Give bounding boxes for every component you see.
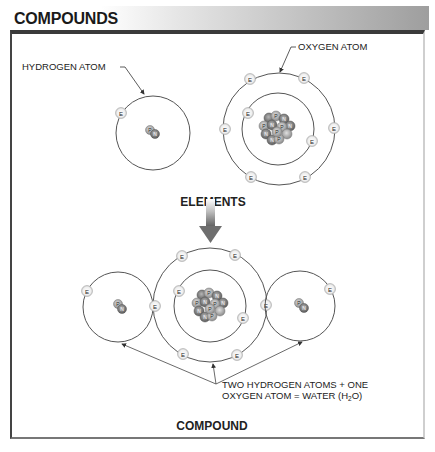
svg-text:N: N — [203, 314, 207, 320]
electron-icon: E — [150, 301, 161, 312]
svg-text:E: E — [302, 76, 306, 82]
electron-icon: E — [174, 286, 185, 297]
electron-icon: E — [232, 350, 243, 361]
atom-diagram: E P N HYDROGEN ATOM E E E E E E E E P N … — [0, 0, 435, 452]
electron-icon: E — [82, 286, 93, 297]
electron-icon: E — [245, 74, 256, 85]
electron-icon: E — [220, 124, 231, 135]
svg-text:E: E — [246, 111, 250, 117]
svg-text:E: E — [235, 353, 239, 359]
svg-text:N: N — [197, 308, 201, 314]
electron-icon: E — [261, 300, 272, 311]
electron-icon: E — [325, 284, 336, 295]
electron-icon: E — [177, 251, 188, 262]
oxygen-atom-label: OXYGEN ATOM — [298, 41, 367, 52]
svg-text:E: E — [153, 304, 157, 310]
svg-text:E: E — [328, 287, 332, 293]
compound-oxygen-nucleus: P N N P N P N N P P — [192, 288, 228, 322]
neutron-icon: N — [300, 304, 309, 313]
caption-line-2: OXYGEN ATOM = WATER (H2O) — [222, 390, 362, 402]
svg-text:E: E — [303, 175, 307, 181]
svg-text:N: N — [302, 305, 306, 311]
svg-text:E: E — [181, 352, 185, 358]
svg-text:N: N — [221, 300, 225, 306]
electron-icon: E — [299, 73, 310, 84]
svg-text:N: N — [153, 131, 157, 137]
compound-heading: COMPOUND — [176, 419, 248, 433]
caption-pointer-lines — [122, 342, 302, 384]
svg-text:N: N — [203, 299, 207, 305]
electron-icon: E — [307, 136, 318, 147]
compound-hydrogen-left: E P N — [82, 272, 154, 342]
oxygen-atom: E E E E E E E E P N N P N P N N P P — [220, 73, 340, 186]
electron-icon: E — [246, 172, 257, 183]
svg-text:E: E — [223, 127, 227, 133]
svg-text:N: N — [282, 116, 286, 122]
svg-text:E: E — [310, 139, 314, 145]
compound-hydrogen-right: E P N — [265, 271, 336, 341]
electron-icon: E — [178, 349, 189, 360]
caption-line-1: TWO HYDROGEN ATOMS + ONE — [222, 379, 368, 390]
neutron-icon: N — [151, 130, 160, 139]
neutron-icon: N — [118, 305, 127, 314]
svg-text:E: E — [248, 77, 252, 83]
hydrogen-atom-label: HYDROGEN ATOM — [22, 61, 106, 72]
svg-text:E: E — [241, 316, 245, 322]
compound-oxygen: E E E E E E E E P N N P N P N N P P — [150, 248, 272, 362]
svg-text:E: E — [119, 111, 123, 117]
electron-icon: E — [243, 108, 254, 119]
hydrogen-atom: E P N — [116, 96, 191, 170]
svg-text:N: N — [120, 306, 124, 312]
electron-icon: E — [238, 313, 249, 324]
svg-text:N: N — [215, 293, 219, 299]
svg-text:N: N — [270, 122, 274, 128]
svg-text:E: E — [85, 289, 89, 295]
oxygen-leader-line — [280, 47, 296, 72]
svg-text:E: E — [249, 175, 253, 181]
svg-text:E: E — [332, 126, 336, 132]
svg-text:E: E — [177, 289, 181, 295]
electron-icon: E — [300, 172, 311, 183]
hydrogen-leader-line — [120, 67, 144, 94]
electron-icon: E — [329, 123, 340, 134]
svg-text:N: N — [288, 123, 292, 129]
svg-text:N: N — [270, 137, 274, 143]
electron-icon: E — [230, 250, 241, 261]
svg-text:N: N — [264, 131, 268, 137]
electron-icon: E — [116, 108, 127, 119]
svg-text:E: E — [180, 254, 184, 260]
svg-text:E: E — [233, 253, 237, 259]
oxygen-nucleus: P N N P N P N N P P — [259, 111, 295, 145]
